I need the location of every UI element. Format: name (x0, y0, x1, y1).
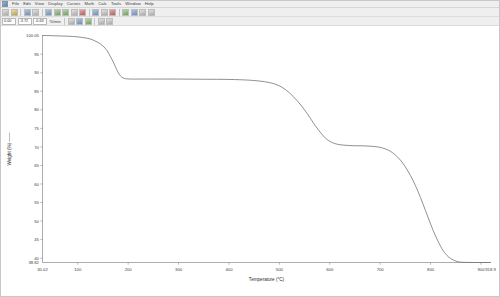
svg-text:400: 400 (225, 267, 233, 272)
svg-text:80: 80 (34, 107, 39, 112)
zoom-out-button[interactable] (62, 9, 69, 16)
toolbar-separator (42, 9, 43, 16)
x-axis-title: Temperature (°C) (249, 277, 285, 282)
svg-text:200: 200 (125, 267, 133, 272)
toolbar-separator (20, 9, 21, 16)
tga-chart[interactable]: 1002003004005006007008009009590858075706… (0, 26, 500, 294)
save-file-button[interactable] (24, 9, 31, 16)
svg-text:300: 300 (175, 267, 183, 272)
baseline-button[interactable] (85, 18, 92, 25)
svg-text:60: 60 (34, 182, 39, 187)
svg-text:85: 85 (34, 89, 39, 94)
menu-item-window[interactable]: Window (125, 1, 141, 7)
units-label: %/min (49, 18, 62, 25)
svg-text:30.02: 30.02 (37, 267, 48, 272)
toolbar-separator (89, 9, 90, 16)
legend-toggle-button[interactable] (106, 18, 113, 25)
chart-tick-labels: 1002003004005006007008009009590858075706… (26, 33, 496, 271)
value-field[interactable]: 0.00 (2, 18, 16, 25)
analyze-button[interactable] (92, 9, 99, 16)
smooth-button[interactable] (76, 18, 83, 25)
peak-button[interactable] (109, 9, 116, 16)
svg-text:95: 95 (34, 52, 39, 57)
svg-text:50: 50 (34, 219, 39, 224)
toolbar-secondary: 0.00 -3.72 -0.63 %/min (0, 17, 500, 26)
svg-text:55: 55 (34, 200, 39, 205)
signal-button[interactable] (79, 9, 86, 16)
svg-text:918.9: 918.9 (485, 267, 496, 272)
y-axis-title: Weight (%) —— (7, 132, 12, 166)
grid-toggle-button[interactable] (98, 18, 105, 25)
menu-item-file[interactable]: File (12, 1, 19, 7)
label-button[interactable] (139, 9, 146, 16)
toolbar-separator (94, 18, 95, 25)
svg-text:100.05: 100.05 (26, 33, 39, 38)
menu-item-view[interactable]: View (35, 1, 44, 7)
scale-field[interactable]: -0.63 (33, 18, 47, 25)
options-button[interactable] (148, 9, 155, 16)
svg-text:70: 70 (34, 145, 39, 150)
rescale-button[interactable] (45, 9, 52, 16)
chart-series (43, 36, 491, 263)
chart-axis-titles: Temperature (°C)Weight (%) —— (7, 132, 285, 281)
chart-ticks (40, 54, 481, 264)
app-icon[interactable] (2, 1, 8, 7)
svg-text:38.82: 38.82 (28, 260, 39, 265)
svg-text:75: 75 (34, 126, 39, 131)
integrate-button[interactable] (122, 9, 129, 16)
toolbar-separator (64, 18, 65, 25)
open-file-button[interactable] (11, 9, 18, 16)
application-window: File Edit View Display Curves Math Calc … (0, 0, 500, 297)
svg-text:700: 700 (377, 267, 385, 272)
menu-bar: File Edit View Display Curves Math Calc … (0, 0, 500, 8)
tga-curve (43, 36, 491, 263)
new-file-button[interactable] (2, 9, 9, 16)
svg-text:90: 90 (34, 70, 39, 75)
linear-fit-button[interactable] (68, 18, 75, 25)
svg-text:900: 900 (477, 267, 485, 272)
menu-item-calc[interactable]: Calc (98, 1, 107, 7)
svg-text:45: 45 (34, 237, 39, 242)
toolbar-primary (0, 8, 500, 17)
menu-item-curves[interactable]: Curves (67, 1, 81, 7)
onset-button[interactable] (101, 9, 108, 16)
menu-item-help[interactable]: Help (145, 1, 154, 7)
svg-text:65: 65 (34, 163, 39, 168)
toolbar-separator (119, 9, 120, 16)
svg-text:100: 100 (74, 267, 82, 272)
menu-item-edit[interactable]: Edit (23, 1, 31, 7)
menu-item-math[interactable]: Math (85, 1, 95, 7)
menu-item-display[interactable]: Display (48, 1, 62, 7)
plot-client-area[interactable]: 1002003004005006007008009009590858075706… (0, 26, 500, 297)
menu-item-tools[interactable]: Tools (111, 1, 121, 7)
derivative-button[interactable] (131, 9, 138, 16)
zoom-in-button[interactable] (54, 9, 61, 16)
svg-text:600: 600 (326, 267, 334, 272)
cursor-button[interactable] (71, 9, 78, 16)
svg-text:800: 800 (427, 267, 435, 272)
print-button[interactable] (32, 9, 39, 16)
range-field[interactable]: -3.72 (18, 18, 32, 25)
chart-axes (43, 36, 491, 263)
svg-text:500: 500 (276, 267, 284, 272)
